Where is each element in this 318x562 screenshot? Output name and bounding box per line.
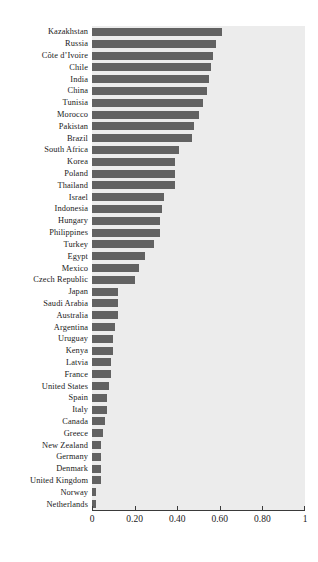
- bar: [92, 276, 135, 284]
- x-tick-mark: [262, 506, 263, 511]
- category-label: Spain: [0, 393, 88, 402]
- category-label: Tunisia: [0, 98, 88, 107]
- bar-row: [92, 181, 305, 189]
- category-axis-labels: KazakhstanRussiaCôte d’IvoireChileIndiaC…: [0, 26, 88, 510]
- x-tick-label: 0.40: [169, 514, 186, 525]
- category-label: Russia: [0, 39, 88, 48]
- bar-row: [92, 264, 305, 272]
- bar-row: [92, 99, 305, 107]
- category-label: Kenya: [0, 346, 88, 355]
- bar: [92, 63, 211, 71]
- bar-row: [92, 476, 305, 484]
- bar-row: [92, 429, 305, 437]
- bar: [92, 99, 203, 107]
- category-label: Australia: [0, 311, 88, 320]
- category-label: Norway: [0, 488, 88, 497]
- bar: [92, 75, 209, 83]
- bar: [92, 134, 192, 142]
- x-tick-label: 0.60: [211, 514, 228, 525]
- bar: [92, 429, 103, 437]
- x-tick-mark: [135, 506, 136, 511]
- category-label: Netherlands: [0, 500, 88, 509]
- bar: [92, 476, 101, 484]
- bar-row: [92, 217, 305, 225]
- category-label: Czech Republic: [0, 275, 88, 284]
- bar-row: [92, 40, 305, 48]
- bar-row: [92, 170, 305, 178]
- category-label: Canada: [0, 417, 88, 426]
- bar-row: [92, 158, 305, 166]
- category-label: India: [0, 75, 88, 84]
- bar-row: [92, 111, 305, 119]
- bar-row: [92, 252, 305, 260]
- category-label: Indonesia: [0, 204, 88, 213]
- x-tick-label: 1: [303, 514, 308, 525]
- bar-row: [92, 205, 305, 213]
- bar-row: [92, 358, 305, 366]
- bar-row: [92, 394, 305, 402]
- bar-chart: KazakhstanRussiaCôte d’IvoireChileIndiaC…: [0, 0, 318, 562]
- bar: [92, 252, 145, 260]
- category-label: New Zealand: [0, 441, 88, 450]
- category-label: Mexico: [0, 264, 88, 273]
- category-label: South Africa: [0, 145, 88, 154]
- bar-row: [92, 441, 305, 449]
- bar: [92, 170, 175, 178]
- bar-row: [92, 134, 305, 142]
- category-label: Japan: [0, 287, 88, 296]
- category-label: Kazakhstan: [0, 27, 88, 36]
- category-label: Greece: [0, 429, 88, 438]
- bars-layer: [92, 26, 305, 510]
- bar: [92, 158, 175, 166]
- x-tick-label: 0: [90, 514, 95, 525]
- bar: [92, 394, 107, 402]
- category-label: France: [0, 370, 88, 379]
- bar-row: [92, 146, 305, 154]
- bar-row: [92, 488, 305, 496]
- bar-row: [92, 28, 305, 36]
- bar-row: [92, 75, 305, 83]
- bar-row: [92, 122, 305, 130]
- plot-area: [92, 26, 305, 510]
- bar-row: [92, 52, 305, 60]
- bar: [92, 193, 164, 201]
- bar-row: [92, 465, 305, 473]
- bar-row: [92, 87, 305, 95]
- category-label: Pakistan: [0, 122, 88, 131]
- bar: [92, 229, 160, 237]
- bar: [92, 299, 118, 307]
- bar: [92, 264, 139, 272]
- bar: [92, 311, 118, 319]
- bar: [92, 52, 213, 60]
- bar: [92, 87, 207, 95]
- bar: [92, 240, 154, 248]
- bar: [92, 217, 160, 225]
- category-label: Argentina: [0, 323, 88, 332]
- category-label: United Kingdom: [0, 476, 88, 485]
- bar-row: [92, 323, 305, 331]
- category-label: Côte d’Ivoire: [0, 51, 88, 60]
- bar-row: [92, 370, 305, 378]
- category-label: Uruguay: [0, 334, 88, 343]
- bar-row: [92, 299, 305, 307]
- bar-row: [92, 417, 305, 425]
- bar-row: [92, 311, 305, 319]
- category-label: Egypt: [0, 252, 88, 261]
- bar: [92, 111, 199, 119]
- bar: [92, 205, 162, 213]
- bar-row: [92, 335, 305, 343]
- category-label: United States: [0, 382, 88, 391]
- bar: [92, 181, 175, 189]
- category-label: Poland: [0, 169, 88, 178]
- bar-row: [92, 500, 305, 508]
- bar: [92, 323, 115, 331]
- category-label: Turkey: [0, 240, 88, 249]
- category-label: Israel: [0, 193, 88, 202]
- bar-row: [92, 347, 305, 355]
- bar: [92, 335, 113, 343]
- bar-row: [92, 276, 305, 284]
- bar: [92, 347, 113, 355]
- category-label: Thailand: [0, 181, 88, 190]
- bar: [92, 28, 222, 36]
- x-tick-label: 0.20: [126, 514, 143, 525]
